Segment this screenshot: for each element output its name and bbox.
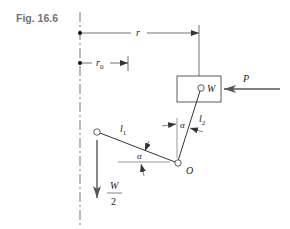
force-p: P (224, 73, 280, 89)
alpha-lower-label: α (137, 151, 142, 161)
half-w-denominator: 2 (111, 196, 116, 207)
p-label: P (242, 73, 249, 84)
mechanism-diagram: r r0 W P l2 α l1 α (0, 0, 290, 229)
r-dimension: r (78, 25, 199, 76)
mass-block: W (177, 76, 221, 102)
r0-dimension: r0 (78, 56, 128, 71)
o-label: O (186, 165, 193, 176)
pivot-o: O (175, 160, 193, 176)
r-label: r (136, 27, 140, 38)
force-half-w: W 2 (97, 140, 122, 207)
link-l2: l2 α (162, 91, 206, 161)
alpha-upper-label: α (180, 120, 185, 130)
w-label: W (207, 83, 217, 94)
r0-label: r0 (96, 57, 104, 71)
link-l1: l1 α (94, 123, 175, 176)
l2-label: l2 (199, 113, 206, 127)
half-w-numerator: W (110, 180, 120, 191)
l1-label: l1 (120, 123, 127, 137)
